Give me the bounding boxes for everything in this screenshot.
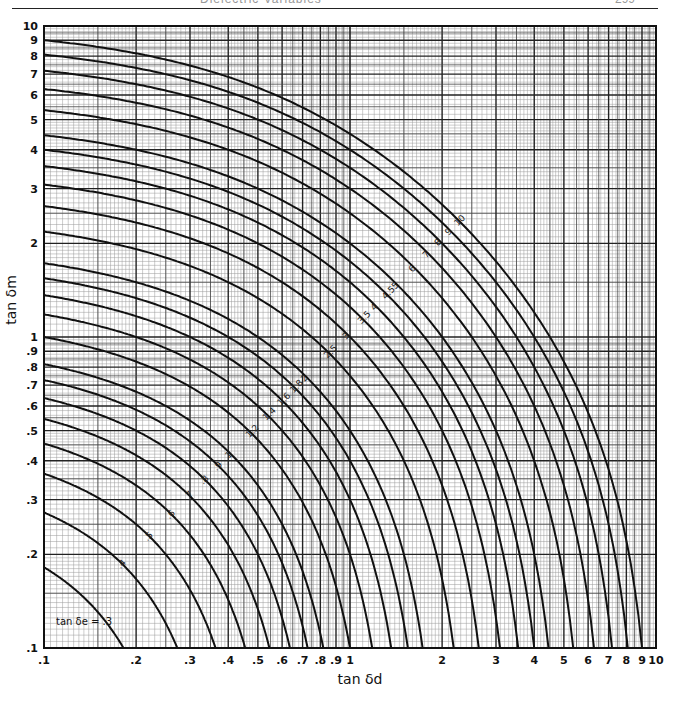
- x-tick-label: 9: [638, 654, 646, 667]
- nomograph-chart: .4.5.6.7.8.911.21.41.61.822.533.544.5567…: [0, 0, 674, 704]
- x-tick-label: .2: [130, 654, 142, 667]
- y-tick-label: 8: [30, 50, 38, 63]
- x-tick-label: .3: [184, 654, 196, 667]
- y-tick-label: 7: [30, 68, 38, 81]
- y-tick-label: 10: [23, 20, 39, 33]
- y-axis-label: tan δm: [3, 275, 19, 325]
- x-tick-label: .9: [330, 654, 342, 667]
- y-tick-label: 1: [30, 331, 38, 344]
- x-tick-label: 2: [438, 654, 446, 667]
- x-tick-label: .4: [222, 654, 234, 667]
- x-axis-ticks: .1.2.3.4.5.6.7.8.912345678910: [38, 654, 664, 667]
- y-tick-label: 3: [30, 183, 38, 196]
- y-axis-ticks: .1.2.3.4.5.6.7.8.912345678910: [23, 20, 39, 655]
- y-tick-label: .3: [26, 494, 38, 507]
- y-tick-label: .1: [26, 642, 38, 655]
- x-tick-label: 3: [492, 654, 500, 667]
- x-tick-label: .7: [297, 654, 309, 667]
- x-tick-label: .1: [38, 654, 50, 667]
- x-tick-label: 4: [530, 654, 538, 667]
- y-tick-label: 6: [30, 89, 38, 102]
- y-tick-label: .2: [26, 548, 38, 561]
- x-tick-label: 5: [560, 654, 568, 667]
- y-tick-label: .9: [26, 345, 38, 358]
- curve-labels: .4.5.6.7.8.911.21.41.61.822.533.544.5567…: [115, 213, 468, 571]
- y-tick-label: 4: [30, 144, 38, 157]
- y-tick-label: .4: [26, 455, 38, 468]
- x-axis-label: tan δd: [338, 671, 383, 687]
- y-tick-label: 9: [30, 34, 38, 47]
- x-tick-label: .8: [314, 654, 326, 667]
- annotation-tan-delta-e: tan δe = .3: [56, 616, 112, 627]
- x-tick-label: 10: [648, 654, 664, 667]
- x-tick-label: 7: [605, 654, 613, 667]
- x-tick-label: 6: [584, 654, 592, 667]
- y-tick-label: .5: [26, 425, 38, 438]
- y-tick-label: 5: [30, 114, 38, 127]
- y-tick-label: .7: [26, 379, 38, 392]
- x-tick-label: 1: [346, 654, 354, 667]
- x-tick-label: .5: [252, 654, 264, 667]
- y-tick-label: 2: [30, 237, 38, 250]
- curve-label: 3.5: [356, 309, 373, 326]
- y-tick-label: .8: [26, 361, 38, 374]
- y-tick-label: .6: [26, 400, 38, 413]
- curve-tan-delta-e: [44, 419, 269, 648]
- x-tick-label: .6: [276, 654, 288, 667]
- x-tick-label: 8: [623, 654, 631, 667]
